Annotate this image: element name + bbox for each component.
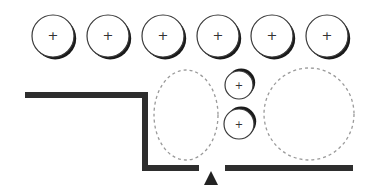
plus-icon: + — [235, 80, 243, 91]
triangle-marker-icon — [204, 171, 218, 185]
plus-icon: + — [103, 28, 114, 43]
plus-icon: + — [235, 119, 243, 130]
position-marker — [204, 171, 218, 185]
dashed-zone — [264, 68, 354, 160]
plus-icon: + — [213, 28, 224, 43]
diagram-canvas: ++++++ ++ — [0, 0, 367, 193]
plus-icon: + — [267, 28, 278, 43]
dashed-zone — [154, 70, 218, 160]
small-circle-1[interactable]: + — [225, 69, 255, 99]
wall-segment — [25, 95, 199, 168]
plus-icon: + — [158, 28, 169, 43]
walls — [25, 95, 353, 168]
top-row-circles: ++++++ — [32, 15, 350, 59]
top-circle-2[interactable]: + — [87, 15, 131, 59]
small-circles: ++ — [224, 69, 256, 139]
diagram-svg: ++++++ ++ — [0, 0, 367, 193]
top-circle-3[interactable]: + — [142, 15, 186, 59]
top-circle-4[interactable]: + — [197, 15, 241, 59]
top-circle-1[interactable]: + — [32, 15, 76, 59]
small-circle-2[interactable]: + — [224, 107, 256, 139]
plus-icon: + — [48, 28, 59, 43]
top-circle-5[interactable]: + — [251, 15, 295, 59]
top-circle-6[interactable]: + — [306, 15, 350, 59]
plus-icon: + — [322, 28, 333, 43]
